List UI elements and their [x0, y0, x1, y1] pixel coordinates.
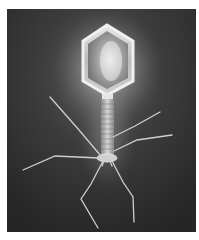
phage-svg — [7, 9, 196, 232]
capsid-head — [83, 25, 133, 95]
collar — [102, 94, 113, 99]
tail-sheath — [101, 99, 114, 155]
phage-illustration — [7, 9, 196, 232]
